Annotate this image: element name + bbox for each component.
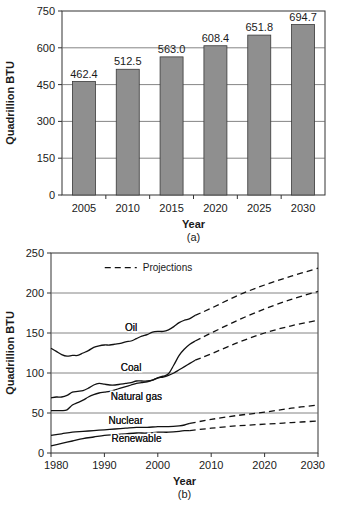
- panel-a-x-tick-label: 2020: [203, 202, 227, 214]
- panel-b-x-tick-label: 2020: [252, 459, 276, 471]
- panel-b-x-tick-label: 2000: [146, 459, 170, 471]
- panel-b-series-annotation: Nuclear: [109, 415, 144, 426]
- figure-energy-outlook: 0150300450600750Quadrillion BTU462.42005…: [0, 0, 343, 509]
- panel-b-y-tick-label: 50: [32, 407, 44, 419]
- panel-a-y-tick-label: 300: [37, 115, 55, 127]
- panel-a-x-axis-title: Year: [182, 218, 206, 230]
- panel-a-bar-value-label: 563.0: [158, 43, 186, 55]
- panel-b-caption: (b): [178, 488, 191, 500]
- panel-a-x-tick-label: 2010: [116, 202, 140, 214]
- panel-b-x-tick-label: 2010: [199, 459, 223, 471]
- panel-b-series-annotation: Coal: [121, 362, 142, 373]
- panel-a-x-tick-label: 2015: [159, 202, 183, 214]
- panel-a-y-axis-title: Quadrillion BTU: [4, 61, 16, 145]
- panel-b-x-axis-title: Year: [173, 475, 197, 487]
- panel-a-bar: [72, 82, 95, 195]
- panel-b-series-annotation: Natural gas: [111, 391, 162, 402]
- panel-b-legend-label: Projections: [143, 262, 192, 273]
- panel-b-x-tick-label: 1980: [44, 459, 68, 471]
- panel-a-bar: [248, 35, 271, 195]
- panel-a-bar-value-label: 608.4: [202, 32, 230, 44]
- panel-a-plot-frame: [62, 11, 325, 195]
- panel-a-x-tick-label: 2025: [247, 202, 271, 214]
- panel-a-bar: [292, 25, 315, 195]
- panel-a-y-tick-label: 0: [49, 189, 55, 201]
- panel-b-plot-frame: [51, 253, 318, 453]
- panel-b-y-axis-title: Quadrillion BTU: [4, 311, 16, 395]
- panel-b-y-tick-label: 0: [38, 447, 44, 459]
- panel-a-caption: (a): [187, 231, 200, 243]
- panel-a-x-tick-label: 2030: [291, 202, 315, 214]
- panel-a-y-tick-label: 150: [37, 152, 55, 164]
- panel-a-bar: [160, 57, 183, 195]
- panel-b-y-tick-label: 100: [26, 367, 44, 379]
- panel-a-bar-value-label: 462.4: [70, 68, 98, 80]
- panel-a-bar-value-label: 651.8: [245, 21, 273, 33]
- panel-a-bar-value-label: 694.7: [289, 11, 317, 23]
- panel-a-bar-value-label: 512.5: [114, 55, 142, 67]
- panel-b-series-annotation: Renewable: [111, 433, 161, 444]
- panel-b-y-tick-label: 250: [26, 247, 44, 259]
- panel-a-bar: [116, 69, 139, 195]
- panel-b-x-tick-label: 1990: [92, 459, 116, 471]
- panel-a-y-tick-label: 750: [37, 5, 55, 17]
- panel-b-y-tick-label: 150: [26, 327, 44, 339]
- panel-a-y-tick-label: 600: [37, 42, 55, 54]
- panel-a-bar: [204, 46, 227, 195]
- panel-a-y-tick-label: 450: [37, 79, 55, 91]
- figure-canvas: 0150300450600750Quadrillion BTU462.42005…: [0, 0, 343, 509]
- panel-b-x-tick-label: 2030: [301, 459, 325, 471]
- panel-b-y-tick-label: 200: [26, 287, 44, 299]
- panel-a-x-tick-label: 2005: [72, 202, 96, 214]
- panel-b-series-annotation: Oil: [125, 322, 137, 333]
